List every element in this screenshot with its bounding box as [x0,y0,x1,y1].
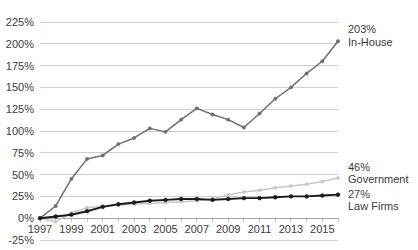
series-data-point [132,201,136,205]
chart-container: 225%200%175%150%125%100%75%50%25%0%-25% … [0,0,418,250]
series-data-point [85,209,89,213]
series-in-house [38,39,339,219]
series-data-point [85,206,88,209]
y-axis-tick-label: 125% [6,103,34,115]
series-data-point [289,184,292,187]
series-data-point [85,157,88,160]
series-data-point [289,86,292,89]
annotation-label-in-house: In-House [348,36,393,48]
series-line [40,195,338,219]
series-data-point [336,176,339,179]
x-axis-tick-label: 2005 [153,223,177,235]
annotation-value-law-firms: 27% [348,188,370,200]
gridlines [40,22,338,240]
series-data-point [101,205,105,209]
series-data-point [274,186,277,189]
series-data-point [54,220,57,223]
series-data-point [195,107,198,110]
annotation-value-in-house: 203% [348,23,376,35]
series-data-point [274,97,277,100]
series-data-point [164,130,167,133]
x-axis-tick-label: 2007 [185,223,209,235]
series-data-point [132,136,135,139]
series-data-point [305,195,309,199]
series-data-point [320,194,324,198]
x-axis-tick-label: 1999 [59,223,83,235]
series-data-point [54,204,57,207]
series-line [40,41,338,218]
series-data-point [195,197,199,201]
x-axis-tick-label: 1997 [28,223,52,235]
series-data-point [211,198,215,202]
series-data-point [211,113,214,116]
series-data-point [336,193,340,197]
x-axis-tick-label: 2001 [90,223,114,235]
x-axis-tick-label: 2011 [248,223,272,235]
series-law-firms [38,193,340,220]
y-axis-tick-labels: 225%200%175%150%125%100%75%50%25%0%-25% [6,16,34,246]
y-axis-tick-label: 75% [12,147,34,159]
annotation-label-law-firms: Law Firms [348,200,399,212]
series-data-point [179,197,183,201]
line-chart: 225%200%175%150%125%100%75%50%25%0%-25% … [0,0,418,250]
y-axis-tick-label: 50% [12,169,34,181]
x-axis-tick-label: 2009 [216,223,240,235]
x-axis-tick-label: 2013 [279,223,303,235]
y-axis-tick-label: 25% [12,190,34,202]
x-axis-tick-label: 2015 [310,223,334,235]
y-axis-tick-label: 175% [6,60,34,72]
series-data-point [179,118,182,121]
series-data-point [273,195,277,199]
series-data-point [242,126,245,129]
series-data-point [164,198,168,202]
series-end-annotations: 203%In-House46%Government27%Law Firms [348,23,409,211]
series-data-point [38,216,42,220]
series-data-point [289,195,293,199]
data-series-group [38,39,340,223]
series-data-point [227,193,230,196]
y-axis-tick-label: 100% [6,125,34,137]
series-data-point [321,180,324,183]
y-axis-tick-label: 225% [6,16,34,28]
series-data-point [258,196,262,200]
series-data-point [258,112,261,115]
series-data-point [321,60,324,63]
x-axis-tick-label: 2003 [122,223,146,235]
x-axis-tickmarks [40,218,338,222]
x-axis-tick-labels: 1997199920012003200520072009201120132015 [28,223,335,235]
series-data-point [305,182,308,185]
series-data-point [336,39,339,42]
series-data-point [227,118,230,121]
series-data-point [242,196,246,200]
series-data-point [258,189,261,192]
y-axis-tick-label: 150% [6,81,34,93]
series-data-point [148,199,152,203]
series-data-point [70,177,73,180]
annotation-value-government: 46% [348,161,370,173]
series-data-point [69,213,73,217]
series-data-point [242,190,245,193]
series-data-point [101,154,104,157]
y-axis-tick-label: 200% [6,38,34,50]
series-data-point [226,197,230,201]
series-data-point [117,142,120,145]
series-data-point [148,127,151,130]
annotation-label-government: Government [348,173,409,185]
series-data-point [54,215,58,219]
series-data-point [305,72,308,75]
y-axis-tick-label: -25% [8,234,34,246]
series-data-point [117,202,121,206]
